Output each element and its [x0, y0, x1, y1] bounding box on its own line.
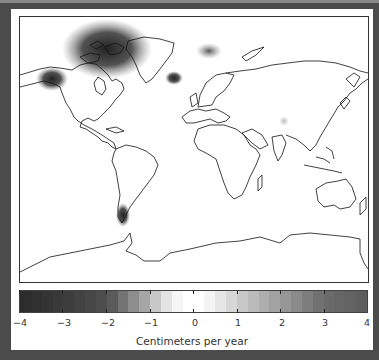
colorbar-tick	[150, 290, 151, 294]
colorbar-segment	[215, 291, 226, 312]
colorbar-tick-label: −4	[13, 317, 27, 328]
colorbar-tick-label: −1	[144, 317, 158, 328]
hotspot-alaska	[36, 67, 68, 91]
colorbar-tick	[62, 309, 63, 313]
colorbar-segment	[248, 291, 259, 312]
colorbar-segment	[313, 291, 324, 312]
colorbar-segment	[356, 291, 367, 312]
colorbar-segment	[183, 291, 194, 312]
coast-north-america	[20, 63, 124, 149]
colorbar-tick	[106, 309, 107, 313]
figure-panel: −4 −3 −2 −1 0 1 2 3 4 Centimeters per ye…	[11, 9, 373, 350]
colorbar-tick	[237, 290, 238, 294]
colorbar-segment	[63, 291, 74, 312]
colorbar-segment	[204, 291, 215, 312]
colorbar-tick	[237, 309, 238, 313]
hotspot-tibet	[279, 116, 289, 126]
coast-arabia	[242, 129, 268, 149]
colorbar-segment	[291, 291, 302, 312]
colorbar-tick	[324, 309, 325, 313]
colorbar-segment	[302, 291, 313, 312]
colorbar-segment	[107, 291, 118, 312]
hotspot-iceland	[165, 71, 183, 85]
colorbar-axis-label: Centimeters per year	[11, 335, 373, 347]
colorbar-segment	[139, 291, 150, 312]
coast-novaya-zemlya	[242, 47, 264, 61]
colorbar-segment	[85, 291, 96, 312]
world-map-svg	[20, 17, 368, 282]
top-strip	[0, 0, 379, 3]
colorbar-segment	[161, 291, 172, 312]
coast-hudson-bay	[94, 77, 106, 95]
colorbar-tick	[19, 290, 20, 294]
coast-kamchatka	[346, 73, 360, 87]
hotspot-svalbard	[196, 43, 222, 59]
colorbar-segment	[324, 291, 335, 312]
coast-uk	[190, 93, 198, 107]
colorbar-tick-label: 4	[364, 317, 370, 328]
colorbar-tick-label: 1	[235, 317, 241, 328]
colorbar-segment	[128, 291, 139, 312]
colorbar-segment	[259, 291, 270, 312]
hotspot-canadian-arctic	[62, 19, 152, 79]
coast-africa	[194, 125, 260, 199]
coast-east-asia	[286, 79, 368, 151]
colorbar-tick	[62, 290, 63, 294]
coast-eurasia-north	[226, 61, 368, 73]
coast-madagascar	[258, 175, 262, 191]
colorbar-segment	[74, 291, 85, 312]
colorbar-tick-label: 2	[279, 317, 285, 328]
colorbar-tick-label: −2	[101, 317, 115, 328]
colorbar-segment	[150, 291, 161, 312]
colorbar-tick	[280, 309, 281, 313]
colorbar-tick	[150, 309, 151, 313]
colorbar-tick	[193, 290, 194, 294]
colorbar-segment	[118, 291, 129, 312]
coast-europe	[182, 109, 230, 123]
colorbar-segment	[237, 291, 248, 312]
colorbar-tick	[193, 309, 194, 313]
colorbar-segment	[226, 291, 237, 312]
colorbar-segment	[20, 291, 31, 312]
colorbar-segment	[269, 291, 280, 312]
colorbar-segment	[280, 291, 291, 312]
colorbar-segment	[172, 291, 183, 312]
colorbar-tick	[106, 290, 107, 294]
colorbar-tick	[280, 290, 281, 294]
coast-scandinavia	[198, 73, 234, 107]
coast-australia	[316, 179, 356, 209]
coast-cuba	[106, 127, 124, 133]
colorbar-segment	[334, 291, 345, 312]
colorbar-segment	[31, 291, 42, 312]
colorbar-tick-label: 3	[322, 317, 328, 328]
world-map	[19, 16, 369, 283]
coast-india	[272, 135, 286, 161]
coast-antarctica	[20, 233, 368, 272]
coast-new-zealand	[360, 197, 366, 215]
colorbar-tick-label: −3	[57, 317, 71, 328]
colorbar-segment	[42, 291, 53, 312]
colorbar-segment	[194, 291, 205, 312]
colorbar-segment	[345, 291, 356, 312]
colorbar-tick	[324, 290, 325, 294]
colorbar-tick-label: 0	[192, 317, 198, 328]
